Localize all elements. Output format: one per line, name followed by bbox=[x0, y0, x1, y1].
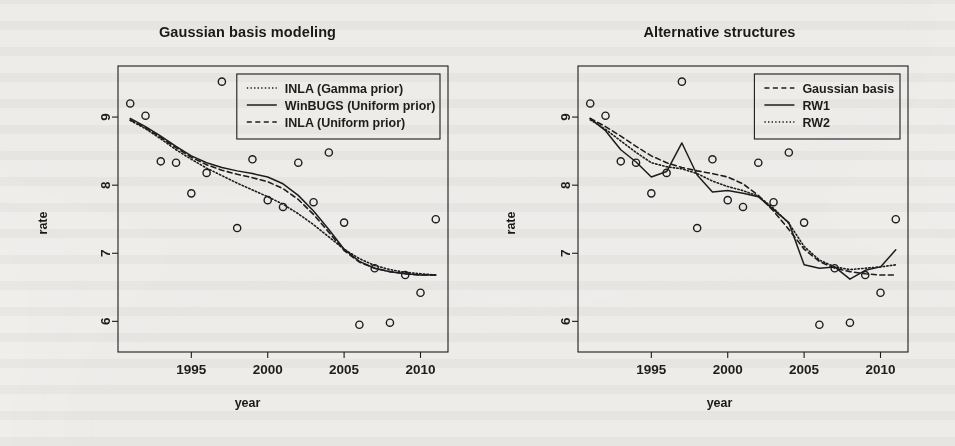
svg-text:7: 7 bbox=[98, 250, 113, 258]
svg-text:1995: 1995 bbox=[176, 362, 207, 377]
svg-text:2010: 2010 bbox=[865, 362, 895, 377]
chart-panel-alternative-structures: Alternative structures 67891995200020052… bbox=[478, 0, 955, 446]
svg-text:6: 6 bbox=[558, 317, 573, 325]
svg-text:2005: 2005 bbox=[329, 362, 360, 377]
chart-panel-gaussian-basis-modeling: Gaussian basis modeling 6789199520002005… bbox=[0, 0, 477, 446]
x-axis-title: year bbox=[478, 396, 955, 410]
plot-area-left: 67891995200020052010INLA (Gamma prior)Wi… bbox=[0, 0, 477, 446]
svg-text:INLA (Uniform prior): INLA (Uniform prior) bbox=[285, 116, 405, 130]
svg-text:INLA (Gamma prior): INLA (Gamma prior) bbox=[285, 82, 403, 96]
svg-text:WinBUGS (Uniform prior): WinBUGS (Uniform prior) bbox=[285, 99, 436, 113]
svg-text:2005: 2005 bbox=[789, 362, 820, 377]
svg-text:1995: 1995 bbox=[636, 362, 667, 377]
svg-text:RW2: RW2 bbox=[802, 116, 830, 130]
svg-text:9: 9 bbox=[98, 113, 113, 121]
svg-text:7: 7 bbox=[558, 250, 573, 258]
svg-text:Gaussian basis: Gaussian basis bbox=[802, 82, 894, 96]
svg-text:2000: 2000 bbox=[253, 362, 283, 377]
svg-text:6: 6 bbox=[98, 317, 113, 325]
svg-text:2000: 2000 bbox=[713, 362, 743, 377]
x-axis-title: year bbox=[0, 396, 477, 410]
plot-area-right: 67891995200020052010Gaussian basisRW1RW2 bbox=[478, 0, 955, 446]
svg-text:9: 9 bbox=[558, 113, 573, 121]
svg-text:RW1: RW1 bbox=[802, 99, 830, 113]
svg-text:8: 8 bbox=[558, 181, 573, 189]
svg-text:8: 8 bbox=[98, 181, 113, 189]
y-axis-title: rate bbox=[36, 212, 50, 235]
y-axis-title: rate bbox=[504, 212, 518, 235]
svg-text:2010: 2010 bbox=[405, 362, 435, 377]
